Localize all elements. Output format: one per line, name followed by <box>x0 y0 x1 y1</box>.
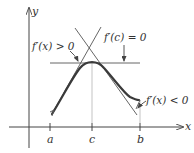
function-curve <box>52 62 139 114</box>
x-axis-label: x <box>185 120 192 133</box>
mean-value-diagram: y x a c b f′(x) > 0 f′(c) = 0 f′(x) < 0 <box>0 0 194 153</box>
label-zero-derivative: f′(c) = 0 <box>103 31 147 43</box>
tick-label-c: c <box>89 133 95 146</box>
tick-label-b: b <box>137 133 144 146</box>
label-negative-derivative: f′(x) < 0 <box>145 94 189 106</box>
y-axis-label: y <box>31 5 39 18</box>
tick-label-a: a <box>47 133 54 146</box>
label-positive-derivative: f′(x) > 0 <box>31 40 75 52</box>
arrow-positive-derivative <box>70 51 78 61</box>
